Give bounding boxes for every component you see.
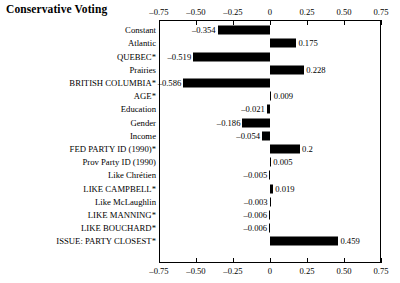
bar bbox=[242, 118, 270, 127]
x-tick-label-top: –0.25 bbox=[223, 7, 242, 17]
x-tick-mark-bottom bbox=[307, 258, 308, 263]
bar bbox=[183, 78, 270, 87]
bar bbox=[269, 210, 270, 219]
bar-row-label: Like Chrétien bbox=[108, 171, 156, 180]
bar-row: BRITISH COLUMBIA*–0.586 bbox=[0, 76, 400, 89]
bar-row: Like Chrétien–0.005 bbox=[0, 169, 400, 182]
bar-row-label: LIKE BOUCHARD* bbox=[81, 224, 156, 233]
bar-row-label: Gender bbox=[130, 118, 156, 127]
x-tick-label-top: –0.75 bbox=[149, 7, 168, 17]
bar-row: QUEBEC*–0.519 bbox=[0, 50, 400, 63]
bar-row: LIKE CAMPBELL*0.019 bbox=[0, 182, 400, 195]
bar-row-label: AGE* bbox=[134, 92, 156, 101]
bar bbox=[270, 197, 271, 206]
x-tick-label-bottom: 0.50 bbox=[336, 266, 351, 276]
x-tick-label-top: 0.25 bbox=[299, 7, 314, 17]
bar-row-label: Income bbox=[130, 131, 156, 140]
bar bbox=[270, 144, 300, 153]
x-tick-mark-bottom bbox=[270, 258, 271, 263]
bar-value-label: –0.021 bbox=[241, 105, 265, 114]
x-tick-mark-bottom bbox=[381, 258, 382, 263]
x-tick-mark-bottom bbox=[196, 258, 197, 263]
bar-value-label: –0.354 bbox=[192, 26, 216, 35]
x-tick-label-top: 0.50 bbox=[336, 7, 351, 17]
x-tick-label-bottom: 0.25 bbox=[299, 266, 314, 276]
bar-value-label: –0.186 bbox=[217, 118, 241, 127]
bar-row: Constant–0.354 bbox=[0, 24, 400, 37]
x-tick-label-bottom: 0.75 bbox=[373, 266, 388, 276]
bar-value-label: –0.006 bbox=[243, 224, 267, 233]
bar bbox=[270, 92, 271, 101]
bar-row: Gender–0.186 bbox=[0, 116, 400, 129]
bar-row-label: QUEBEC* bbox=[117, 52, 156, 61]
x-tick-mark-bottom bbox=[344, 258, 345, 263]
x-tick-label-top: 0 bbox=[268, 7, 272, 17]
bar bbox=[270, 65, 304, 74]
bar-row-label: LIKE CAMPBELL* bbox=[83, 184, 156, 193]
bar-value-label: 0.228 bbox=[306, 65, 325, 74]
bar-value-label: 0.175 bbox=[298, 39, 317, 48]
bar-row-label: Constant bbox=[125, 26, 156, 35]
bar-row: ISSUE: PARTY CLOSEST*0.459 bbox=[0, 235, 400, 248]
bar-row-label: Atlantic bbox=[128, 39, 156, 48]
bar-row: Education–0.021 bbox=[0, 103, 400, 116]
bar-row-label: Like McLaughlin bbox=[95, 197, 156, 206]
bar-row-label: FED PARTY ID (1990)* bbox=[70, 145, 156, 154]
x-tick-mark-bottom bbox=[233, 258, 234, 263]
bar-value-label: 0.2 bbox=[302, 145, 313, 154]
x-tick-label-bottom: 0 bbox=[268, 266, 272, 276]
bar bbox=[193, 52, 270, 61]
bar-row-label: ISSUE: PARTY CLOSEST* bbox=[56, 237, 156, 246]
chart-title: Conservative Voting bbox=[6, 3, 107, 15]
bar-row: Atlantic0.175 bbox=[0, 37, 400, 50]
x-tick-label-top: –0.50 bbox=[186, 7, 205, 17]
bar-row: Income–0.054 bbox=[0, 129, 400, 142]
bar-value-label: 0.005 bbox=[273, 158, 292, 167]
bar bbox=[269, 171, 270, 180]
bar-row: Prairies0.228 bbox=[0, 63, 400, 76]
bar bbox=[270, 39, 296, 48]
bar-row: Like McLaughlin–0.003 bbox=[0, 195, 400, 208]
bar-row: LIKE BOUCHARD*–0.006 bbox=[0, 222, 400, 235]
bar-value-label: 0.019 bbox=[275, 184, 294, 193]
bar-row-label: Education bbox=[121, 105, 156, 114]
bar-row-label: Prov Party ID (1990) bbox=[82, 158, 156, 167]
bar-row: AGE*0.009 bbox=[0, 90, 400, 103]
x-tick-label-bottom: –0.50 bbox=[186, 266, 205, 276]
bar-row: Prov Party ID (1990)0.005 bbox=[0, 156, 400, 169]
bar-row-label: LIKE MANNING* bbox=[88, 211, 156, 220]
bar-row-label: BRITISH COLUMBIA* bbox=[69, 79, 156, 88]
x-tick-label-bottom: –0.75 bbox=[149, 266, 168, 276]
bar-value-label: 0.459 bbox=[340, 237, 359, 246]
bar-value-label: –0.586 bbox=[158, 79, 182, 88]
x-tick-label-bottom: –0.25 bbox=[223, 266, 242, 276]
bar-value-label: –0.005 bbox=[244, 171, 268, 180]
bar bbox=[270, 237, 338, 246]
chart-figure: Conservative Voting –0.75–0.50–0.2500.25… bbox=[0, 0, 400, 283]
bar-value-label: 0.009 bbox=[274, 92, 293, 101]
bar bbox=[270, 184, 273, 193]
bar-row: FED PARTY ID (1990)*0.2 bbox=[0, 142, 400, 155]
x-tick-mark-bottom bbox=[159, 258, 160, 263]
bar bbox=[269, 224, 270, 233]
bar bbox=[267, 105, 270, 114]
bar-value-label: –0.519 bbox=[168, 52, 192, 61]
bar-value-label: –0.003 bbox=[244, 197, 268, 206]
bar-row-label: Prairies bbox=[129, 65, 156, 74]
bar bbox=[270, 158, 271, 167]
bar-value-label: –0.006 bbox=[243, 211, 267, 220]
x-tick-label-top: 0.75 bbox=[373, 7, 388, 17]
bar bbox=[218, 26, 270, 35]
bar-row: LIKE MANNING*–0.006 bbox=[0, 208, 400, 221]
bar bbox=[262, 131, 270, 140]
bar-value-label: –0.054 bbox=[236, 131, 260, 140]
